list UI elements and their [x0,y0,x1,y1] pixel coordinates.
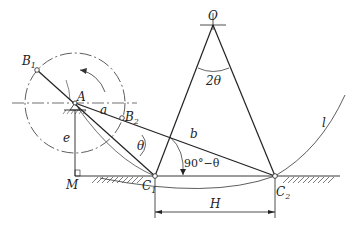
label-90-theta: 90°−θ [184,157,220,170]
mechanism-diagram: O B1 A a B2 e M C1 C2 θ 2θ 90°−θ b H l [0,0,353,230]
label-B2: B2 [124,110,139,126]
ground-hatch-left [92,177,143,183]
dim-arrow-right-icon [268,210,275,214]
rocker-OC1 [155,25,213,176]
label-A: A [76,90,86,104]
joint-C2 [273,174,278,179]
label-M: M [65,178,79,192]
label-H: H [209,197,221,211]
label-2theta: 2θ [205,74,222,88]
label-O: O [208,9,218,23]
rocker-OC2 [213,25,275,176]
ground-hatch-right [283,177,334,183]
joint-C1 [153,174,158,179]
label-b: b [190,127,198,141]
dim-arrow-left-icon [155,210,162,214]
joint-B2 [120,116,125,121]
label-C1: C1 [142,179,156,195]
label-theta: θ [137,139,145,153]
right-angle-mark [75,170,80,176]
angle-2theta-arc [198,68,229,72]
label-l: l [322,116,326,130]
label-e: e [63,131,70,145]
label-a: a [100,103,107,117]
rotation-arrow-icon [80,68,87,74]
label-B1: B1 [21,54,36,70]
label-C2: C2 [276,185,290,201]
rotation-arc [80,70,105,92]
